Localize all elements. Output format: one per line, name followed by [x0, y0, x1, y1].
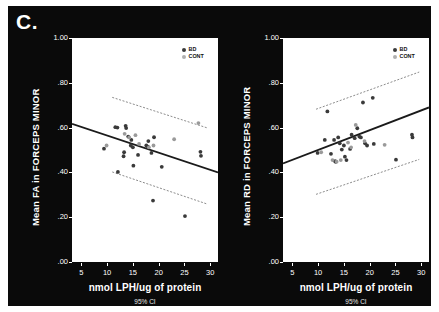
legend-item-label: BD	[400, 46, 408, 53]
data-point-bd	[150, 151, 154, 155]
data-point-cont	[147, 145, 151, 149]
data-point-cont	[134, 133, 138, 137]
data-point-cont	[172, 137, 176, 141]
data-point-bd	[199, 150, 203, 154]
data-point-cont	[354, 123, 358, 127]
data-point-bd	[372, 142, 376, 146]
regression-line	[283, 107, 429, 163]
data-point-bd	[151, 199, 155, 203]
legend-item-label: CONT	[189, 53, 204, 60]
data-point-cont	[349, 145, 353, 149]
data-point-cont	[331, 158, 335, 162]
data-point-bd	[343, 155, 347, 159]
data-point-bd	[316, 151, 320, 155]
data-point-bd	[332, 138, 336, 142]
data-point-bd	[160, 165, 164, 169]
data-point-bd	[199, 154, 203, 158]
regression-line	[72, 124, 218, 173]
figure-container: C. .00.20.40.60.801.0051015202530Mean FA…	[0, 0, 439, 312]
legend-item-bd[interactable]: BD	[393, 46, 415, 53]
data-point-bd	[361, 101, 365, 105]
data-point-bd	[122, 154, 126, 158]
data-point-bd	[338, 141, 342, 145]
data-point-bd	[350, 133, 354, 137]
data-point-bd	[329, 152, 333, 156]
legend: BDCONT	[393, 46, 415, 60]
legend-marker-icon	[182, 55, 186, 59]
legend-marker-icon	[393, 55, 397, 59]
panel-fa-scatter: .00.20.40.60.801.0051015202530Mean FA in…	[8, 6, 219, 306]
data-point-bd	[122, 150, 126, 154]
legend-item-cont[interactable]: CONT	[393, 53, 415, 60]
data-point-cont	[319, 150, 323, 154]
legend-marker-icon	[182, 48, 186, 52]
data-point-bd	[146, 139, 150, 143]
data-point-cont	[127, 136, 131, 140]
data-point-bd	[131, 164, 135, 168]
data-point-bd	[355, 126, 359, 130]
legend-item-cont[interactable]: CONT	[182, 53, 204, 60]
data-point-cont	[335, 160, 339, 164]
data-point-bd	[340, 148, 344, 152]
data-point-bd	[371, 96, 375, 100]
data-point-bd	[345, 158, 349, 162]
data-point-cont	[123, 132, 127, 136]
data-point-bd	[336, 136, 340, 140]
ci-lower-band	[316, 159, 419, 194]
data-point-bd	[359, 136, 363, 140]
legend-item-label: BD	[189, 46, 197, 53]
ci-lower-band	[112, 172, 207, 204]
data-point-bd	[152, 135, 156, 139]
data-point-cont	[137, 142, 141, 146]
figure-plate: C. .00.20.40.60.801.0051015202530Mean FA…	[8, 6, 431, 306]
data-point-bd	[394, 158, 398, 162]
data-point-cont	[346, 141, 350, 145]
data-point-bd	[342, 144, 346, 148]
data-point-bd	[411, 136, 415, 140]
data-point-bd	[124, 126, 128, 130]
data-point-cont	[383, 143, 387, 147]
legend-item-bd[interactable]: BD	[182, 46, 204, 53]
data-point-cont	[105, 144, 109, 148]
panel-rd-scatter: .00.20.40.60.801.0051015202530Mean RD in…	[219, 6, 431, 306]
data-point-cont	[339, 158, 343, 162]
data-point-bd	[323, 138, 327, 142]
legend: BDCONT	[182, 46, 204, 60]
data-point-bd	[136, 153, 140, 157]
data-point-bd	[116, 126, 120, 130]
data-point-cont	[363, 139, 367, 143]
data-point-cont	[152, 144, 156, 148]
data-point-bd	[183, 214, 187, 218]
data-point-cont	[197, 121, 201, 125]
data-point-bd	[102, 147, 106, 151]
data-point-bd	[116, 170, 120, 174]
data-point-bd	[131, 145, 135, 149]
ci-upper-band	[316, 72, 419, 109]
legend-item-label: CONT	[400, 53, 415, 60]
data-point-bd	[365, 144, 369, 148]
data-point-bd	[353, 136, 357, 140]
legend-marker-icon	[393, 48, 397, 52]
data-point-bd	[325, 110, 329, 114]
ci-upper-band	[112, 97, 207, 128]
